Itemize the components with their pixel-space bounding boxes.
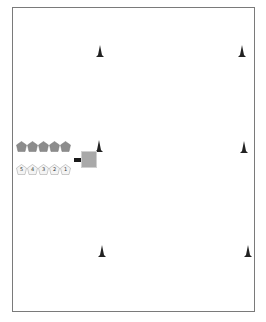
gray-player-marker <box>60 141 71 152</box>
cone-icon <box>96 45 104 58</box>
white-player-marker: 2 <box>49 164 60 175</box>
gray-square-marker <box>81 151 97 168</box>
white-player-marker: 1 <box>60 164 71 175</box>
player-number: 5 <box>16 166 27 173</box>
cone-icon <box>238 45 246 58</box>
gray-player-marker <box>49 141 60 152</box>
player-number: 1 <box>60 166 71 173</box>
cone-icon <box>98 245 106 258</box>
cone-icon <box>244 245 252 258</box>
gray-player-marker <box>16 141 27 152</box>
field-boundary <box>12 7 255 312</box>
gray-player-marker <box>27 141 38 152</box>
player-number: 2 <box>49 166 60 173</box>
white-player-marker: 4 <box>27 164 38 175</box>
white-player-marker: 5 <box>16 164 27 175</box>
player-number: 3 <box>38 166 49 173</box>
white-player-marker: 3 <box>38 164 49 175</box>
marker-bar <box>74 158 81 162</box>
cone-icon <box>240 141 248 154</box>
gray-player-marker <box>38 141 49 152</box>
player-number: 4 <box>27 166 38 173</box>
